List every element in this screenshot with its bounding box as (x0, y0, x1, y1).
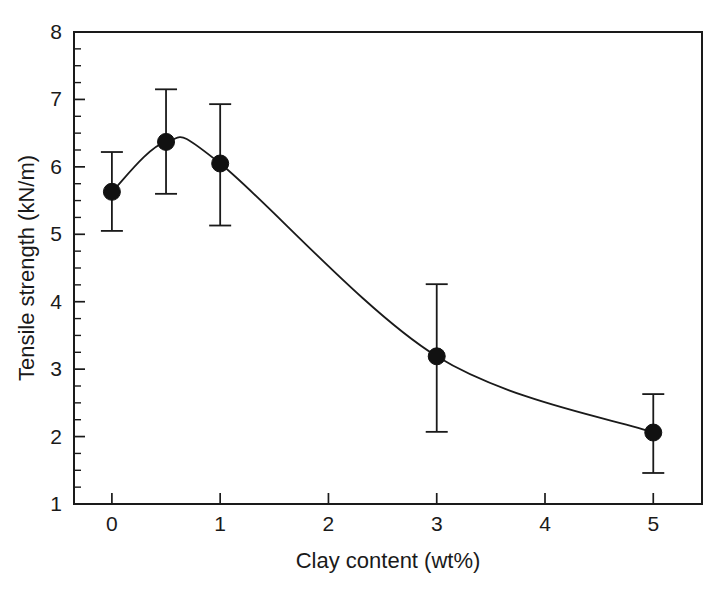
x-tick-label-0: 0 (106, 512, 118, 535)
data-point-marker (103, 183, 120, 200)
x-tick-label-1: 1 (214, 512, 226, 535)
x-tick-label-5: 5 (647, 512, 659, 535)
y-axis-title: Tensile strength (kN/m) (14, 155, 39, 381)
data-point-marker (645, 424, 662, 441)
y-tick-label-6: 6 (50, 155, 62, 178)
x-tick-label-4: 4 (539, 512, 551, 535)
data-point-marker (158, 133, 175, 150)
y-tick-label-7: 7 (50, 87, 62, 110)
x-tick-label-2: 2 (323, 512, 335, 535)
y-tick-label-1: 1 (50, 492, 62, 515)
y-tick-label-8: 8 (50, 20, 62, 43)
y-tick-label-4: 4 (50, 290, 62, 313)
x-tick-label-3: 3 (431, 512, 443, 535)
data-point-marker (212, 155, 229, 172)
y-tick-label-2: 2 (50, 425, 62, 448)
chart-figure: 12345678 012345 Clay content (wt%) Tensi… (0, 0, 721, 592)
y-tick-label-3: 3 (50, 357, 62, 380)
x-axis-title: Clay content (wt%) (296, 548, 481, 573)
chart-canvas: 12345678 012345 Clay content (wt%) Tensi… (0, 0, 721, 592)
data-point-marker (428, 348, 445, 365)
y-tick-label-5: 5 (50, 222, 62, 245)
